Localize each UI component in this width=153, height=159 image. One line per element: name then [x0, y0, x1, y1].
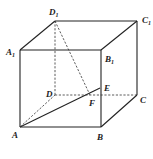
label-E: E — [103, 83, 110, 93]
segment-AE — [20, 88, 100, 127]
label-D: D — [45, 89, 53, 99]
label-B: B — [96, 132, 103, 142]
label-C1: C1 — [142, 15, 151, 26]
label-A1: A1 — [5, 47, 15, 58]
edge-D1A1 — [20, 21, 55, 50]
segment-D1F — [55, 21, 90, 95]
cube-diagram: D1 C1 A1 B1 D E F C A B — [0, 0, 153, 159]
edge-BC — [101, 95, 137, 127]
label-F: F — [88, 98, 95, 108]
edge-AD — [20, 95, 55, 127]
label-B1: B1 — [104, 54, 114, 65]
label-A: A — [11, 130, 18, 140]
label-C: C — [140, 95, 147, 105]
label-D1: D1 — [48, 7, 59, 18]
edge-B1C1 — [101, 21, 137, 50]
